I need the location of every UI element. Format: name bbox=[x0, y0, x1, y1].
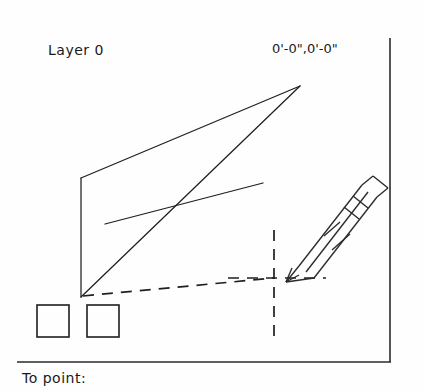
drawing-canvas[interactable] bbox=[0, 0, 423, 392]
command-prompt-label: To point: bbox=[22, 370, 86, 386]
tool-box-2[interactable] bbox=[87, 305, 119, 337]
tool-box-1[interactable] bbox=[37, 305, 69, 337]
cad-application-window: Layer 0 0'-0",0'-0" To point: bbox=[0, 0, 423, 392]
coordinate-readout: 0'-0",0'-0" bbox=[272, 41, 338, 56]
layer-indicator: Layer 0 bbox=[48, 42, 104, 58]
